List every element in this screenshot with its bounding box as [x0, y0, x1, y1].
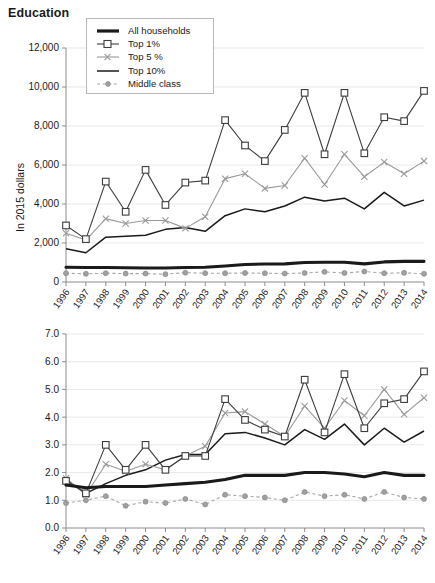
marker-top1	[182, 453, 189, 460]
marker-middle-class	[302, 271, 307, 276]
marker-top1	[83, 236, 90, 243]
legend-label-all-households: All households	[128, 25, 190, 37]
marker-top1	[102, 178, 109, 185]
x-tick-label: 2002	[170, 533, 191, 557]
y-tick-label: 10,000	[28, 81, 59, 92]
marker-middle-class	[143, 271, 148, 276]
marker-top1	[281, 433, 288, 440]
y-tick-label: 0.0	[45, 522, 59, 533]
chart-panel-dollars: Education In 2015 dollars 02,0004,0006,0…	[0, 0, 435, 312]
marker-middle-class	[103, 494, 108, 499]
series-top5	[66, 154, 424, 240]
y-tick-label: 2,000	[34, 237, 59, 248]
marker-top1	[222, 117, 229, 124]
marker-top1	[361, 150, 368, 157]
y-tick-label: 7.0	[45, 328, 59, 339]
marker-middle-class	[163, 272, 168, 277]
x-tick-label: 2000	[130, 287, 151, 311]
marker-middle-class	[243, 494, 248, 499]
marker-middle-class	[342, 271, 347, 276]
marker-middle-class	[262, 495, 267, 500]
y-tick-label: 6,000	[34, 159, 59, 170]
x-tick-label: 2014	[409, 533, 430, 557]
marker-middle-class	[64, 501, 69, 506]
marker-top1	[182, 179, 189, 186]
marker-top5	[421, 395, 427, 401]
marker-top1	[401, 396, 408, 403]
x-tick-label: 2006	[249, 533, 270, 557]
marker-top5	[321, 181, 327, 187]
legend-label-middle-class: Middle class	[128, 78, 181, 90]
series-all-households	[66, 261, 424, 268]
y-tick-label: 4.0	[45, 412, 59, 423]
x-tick-label: 2010	[329, 533, 350, 557]
marker-middle-class	[143, 499, 148, 504]
marker-top5	[421, 158, 427, 164]
chart-panel-share: Share of total expenditures (%) 0.01.02.…	[0, 312, 435, 583]
marker-middle-class	[262, 271, 267, 276]
education-expenditure-figure: Education In 2015 dollars 02,0004,0006,0…	[0, 0, 435, 583]
marker-top1	[381, 114, 388, 121]
marker-middle-class	[223, 271, 228, 276]
legend-key-middle-class	[95, 78, 121, 90]
x-tick-label: 1997	[70, 533, 91, 557]
marker-middle-class	[362, 269, 367, 274]
marker-middle-class	[83, 498, 88, 503]
legend-label-top10: Top 10%	[128, 65, 165, 77]
marker-top5	[202, 214, 208, 220]
marker-top1	[321, 151, 328, 158]
marker-top5	[103, 461, 109, 467]
marker-top5	[341, 397, 347, 403]
marker-middle-class	[83, 271, 88, 276]
marker-middle-class	[282, 498, 287, 503]
marker-top1	[301, 376, 308, 383]
y-tick-label: 2.0	[45, 467, 59, 478]
marker-top1	[321, 429, 328, 436]
x-tick-label: 1997	[70, 287, 91, 311]
marker-middle-class	[402, 270, 407, 275]
marker-middle-class	[322, 494, 327, 499]
legend-key-top1	[95, 38, 121, 50]
marker-middle-class	[203, 502, 208, 507]
legend-label-top5: Top 5 %	[128, 51, 163, 63]
marker-top1	[341, 90, 348, 97]
x-tick-label: 2007	[269, 533, 290, 557]
marker-middle-class	[243, 271, 248, 276]
y-tick-label: 4,000	[34, 198, 59, 209]
y-tick-label: 0	[53, 276, 59, 287]
marker-middle-class	[302, 489, 307, 494]
x-tick-label: 2007	[269, 287, 290, 311]
x-tick-label: 2011	[349, 533, 370, 556]
marker-middle-class	[342, 492, 347, 497]
legend-item-middle-class: Middle class	[95, 78, 207, 91]
line-chart-share: 0.01.02.03.04.05.06.07.01996199719981999…	[0, 312, 435, 583]
marker-middle-class	[382, 489, 387, 494]
x-tick-label: 1996	[51, 533, 72, 557]
marker-top5	[302, 155, 308, 161]
x-tick-label: 2005	[230, 533, 251, 557]
marker-top1	[421, 368, 428, 375]
legend-item-top5: Top 5 %	[95, 51, 207, 64]
x-tick-label: 2002	[170, 287, 191, 311]
y-tick-label: 3.0	[45, 439, 59, 450]
marker-top1	[162, 467, 169, 474]
x-tick-label: 2003	[190, 287, 211, 311]
legend-label-top1: Top 1%	[128, 38, 160, 50]
marker-top1	[63, 478, 70, 485]
marker-top1	[83, 490, 90, 497]
x-tick-label: 2004	[210, 287, 231, 311]
marker-top5	[401, 411, 407, 417]
marker-middle-class	[183, 270, 188, 275]
marker-top1	[361, 425, 368, 432]
marker-top1	[162, 202, 169, 209]
marker-top1	[242, 142, 249, 149]
legend-item-top1: Top 1%	[95, 37, 207, 50]
legend-key-top5	[95, 51, 121, 63]
marker-top1	[63, 222, 70, 229]
x-tick-label: 2014	[409, 287, 430, 311]
marker-middle-class	[223, 492, 228, 497]
marker-middle-class	[422, 496, 427, 501]
x-tick-label: 2008	[289, 533, 310, 557]
series-top10	[66, 424, 424, 493]
series-top5	[66, 389, 424, 494]
